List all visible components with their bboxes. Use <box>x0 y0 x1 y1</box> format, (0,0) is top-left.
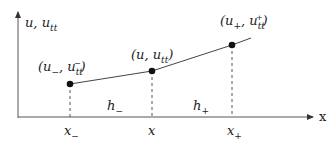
interval-h-minus: h− <box>107 99 123 116</box>
interval-h-plus: h+ <box>193 99 209 116</box>
tick-label-x: x <box>148 124 155 137</box>
tick-label-x-plus: x+ <box>227 124 242 141</box>
point-center-label: (u, utt) <box>131 48 173 65</box>
x-axis-label: x <box>319 110 326 123</box>
y-axis-label: u, utt <box>25 16 57 33</box>
point-center <box>149 68 156 75</box>
point-minus <box>67 81 74 88</box>
point-plus <box>229 42 236 49</box>
tick-label-x-minus: x− <box>64 124 79 141</box>
point-minus-label: (u−, utt−) <box>38 60 86 77</box>
point-plus-label: (u+, utt+) <box>220 14 268 31</box>
